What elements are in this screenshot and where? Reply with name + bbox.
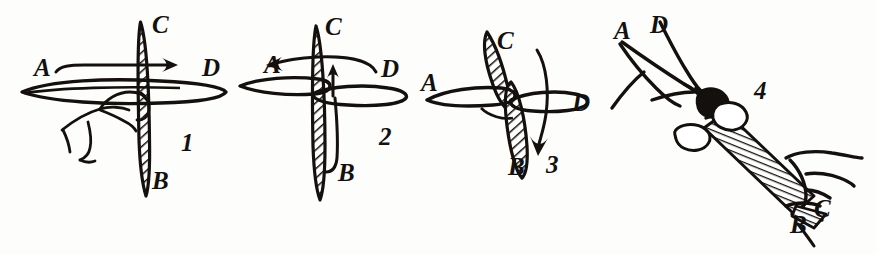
panel-1: C A D B 1: [0, 0, 230, 254]
panel-4-label-A: A: [614, 18, 631, 43]
arrow-down-curved: [530, 50, 548, 156]
panel-4: A D C B 4: [600, 0, 876, 254]
panel-4-label-C: C: [814, 196, 831, 221]
panel-3-label-D: D: [572, 90, 590, 115]
panel-3-label-C: C: [497, 28, 514, 53]
vertical-disc: [312, 26, 325, 200]
panel-2: C A D B 2: [230, 0, 415, 254]
panel-2-number: 2: [379, 124, 392, 149]
figure-canvas: C A D B 1: [0, 0, 876, 254]
leader-line-B: [326, 98, 337, 172]
panel-3-number: 3: [546, 152, 559, 177]
panel-4-label-D: D: [650, 12, 668, 37]
panel-1-label-D: D: [202, 55, 220, 80]
horizontal-disc-right: [312, 86, 406, 106]
panel-1-label-B: B: [152, 168, 169, 193]
panel-4-number: 4: [754, 78, 767, 103]
panel-2-label-A: A: [264, 52, 281, 77]
panel-3-label-A: A: [421, 70, 438, 95]
panel-1-label-A: A: [34, 55, 51, 80]
arrow-a-to-d: [56, 58, 178, 72]
panel-2-label-D: D: [381, 56, 399, 81]
panel-1-label-C: C: [152, 12, 169, 37]
panel-4-drawing: [600, 0, 876, 254]
panel-1-number: 1: [181, 130, 194, 155]
panel-3: C A D B 3: [415, 0, 600, 254]
panel-4-label-B: B: [790, 212, 807, 237]
panel-3-label-B: B: [508, 154, 525, 179]
panel-1-drawing: [0, 0, 230, 254]
panel-2-label-C: C: [325, 14, 342, 39]
panel-2-label-B: B: [338, 160, 355, 185]
